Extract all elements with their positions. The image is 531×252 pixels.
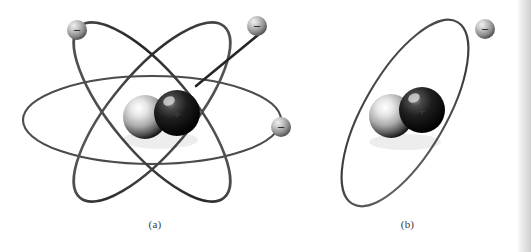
panel-a-caption: (a) xyxy=(0,218,310,230)
panel-b-diagram: + − xyxy=(300,0,515,232)
panel-b-caption: (b) xyxy=(300,218,515,230)
nucleus-shadow xyxy=(369,134,441,150)
electron-1-charge-label: − xyxy=(481,22,489,37)
electron-group-b: − xyxy=(475,19,495,39)
electron-3-charge-label: − xyxy=(277,120,285,135)
proton-charge-label: + xyxy=(418,102,427,119)
panel-b: + − (b) xyxy=(300,0,515,232)
nucleus-a: + xyxy=(122,90,200,149)
electron-2-charge-label: − xyxy=(253,19,261,34)
panel-a-diagram: + − − − xyxy=(0,0,310,232)
electron-1-charge-label: − xyxy=(73,23,81,38)
proton-charge-label: + xyxy=(173,105,182,122)
credit-band xyxy=(517,0,531,252)
nucleus-b: + xyxy=(369,87,445,150)
orbit-front-arc-right xyxy=(196,35,258,86)
panel-a: + − − − (a) xyxy=(0,0,310,232)
atom-figure: + − − − (a) xyxy=(0,0,531,252)
